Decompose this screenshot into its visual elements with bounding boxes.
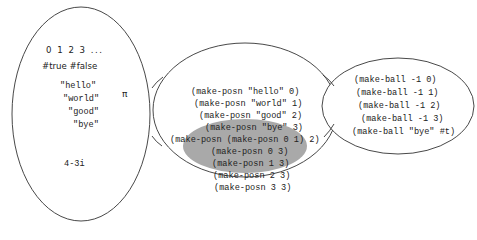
posn-highlight-3: (make-posn 3 3) bbox=[214, 184, 291, 193]
ball-item-0: (make-ball -1 0) bbox=[354, 76, 437, 85]
ball-item-1: (make-ball -1 1) bbox=[356, 89, 439, 98]
booleans-label: #true #false bbox=[42, 62, 97, 71]
posn-item-4: (make-posn (make-posn 0 1) 2) bbox=[170, 136, 320, 145]
numbers-label: 0 1 2 3 ... bbox=[46, 46, 104, 55]
pi-symbol: π bbox=[122, 90, 127, 99]
complex-number: 4-3i bbox=[64, 160, 85, 169]
posn-highlight-2: (make-posn 2 3) bbox=[213, 172, 290, 181]
ball-item-2: (make-ball -1 2) bbox=[358, 102, 441, 111]
posn-highlight-0: (make-posn 0 3) bbox=[211, 148, 288, 157]
string-bye: "bye" bbox=[73, 121, 99, 130]
posn-highlight-1: (make-posn 1 3) bbox=[212, 160, 289, 169]
posn-item-1: (make-posn "world" 1) bbox=[194, 100, 302, 109]
ball-item-3: (make-ball -1 3) bbox=[361, 115, 444, 124]
posn-item-2: (make-posn "good" 2) bbox=[199, 112, 302, 121]
posn-item-0: (make-posn "hello" 0) bbox=[191, 88, 299, 97]
string-world: "world" bbox=[63, 95, 99, 104]
posn-item-3: (make-posn "bye" 3) bbox=[205, 124, 303, 133]
left-cusp-bottom bbox=[152, 136, 162, 146]
ball-item-4: (make-ball "bye" #t) bbox=[352, 128, 455, 137]
string-hello: "hello" bbox=[60, 82, 96, 91]
string-good: "good" bbox=[68, 108, 99, 117]
